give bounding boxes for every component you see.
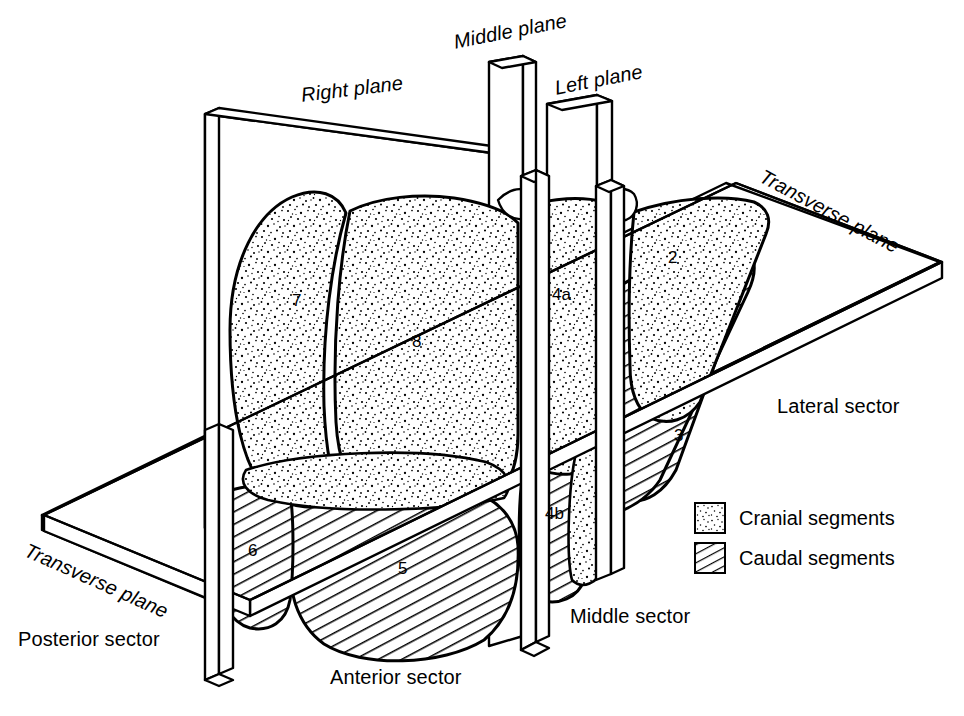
label-middle-sector: Middle sector [570, 606, 690, 626]
liver-segmentation-figure: Right plane Middle plane Left plane Tran… [0, 0, 964, 716]
segment-label-5: 5 [398, 560, 408, 577]
segment-label-4a: 4a [552, 286, 571, 303]
middle-plane-front-slab [521, 170, 549, 650]
label-anterior-sector: Anterior sector [330, 667, 462, 687]
legend-item-caudal-segments: Caudal segments [694, 538, 910, 578]
label-posterior-sector: Posterior sector [18, 629, 160, 649]
caudal-segments-swatch-icon [694, 542, 726, 574]
left-plane-front-slab [596, 180, 624, 580]
legend-label-cranial-segments: Cranial segments [739, 507, 895, 530]
segment-label-2: 2 [668, 249, 678, 266]
segment-label-4b: 4b [545, 505, 564, 522]
right-plane-front-slab [205, 424, 233, 680]
legend-label-caudal-segments: Caudal segments [739, 547, 895, 570]
segment-label-8: 8 [412, 333, 422, 350]
cranial-segments-swatch-icon [694, 502, 726, 534]
segment-label-6: 6 [248, 542, 258, 559]
segment-label-7: 7 [292, 292, 302, 309]
legend-item-cranial-segments: Cranial segments [694, 498, 910, 538]
label-lateral-sector: Lateral sector [777, 396, 900, 416]
legend: Cranial segments Caudal segments [694, 498, 910, 578]
segment-label-3: 3 [674, 427, 684, 444]
